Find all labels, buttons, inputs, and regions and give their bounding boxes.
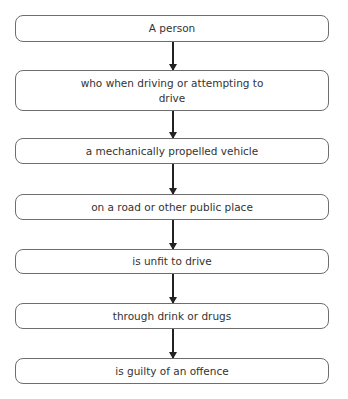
down-arrow-icon — [172, 42, 174, 70]
flow-step-guilty: is guilty of an offence — [15, 358, 329, 384]
flow-step-drink-drugs: through drink or drugs — [15, 303, 329, 329]
step-label: through drink or drugs — [113, 309, 231, 324]
flow-step-unfit: is unfit to drive — [15, 249, 329, 274]
down-arrow-icon — [172, 329, 174, 358]
down-arrow-icon — [172, 164, 174, 194]
step-label: a mechanically propelled vehicle — [86, 144, 258, 159]
down-arrow-icon — [172, 111, 174, 138]
flow-step-vehicle: a mechanically propelled vehicle — [15, 138, 329, 164]
step-label: who when driving or attempting to drive — [76, 76, 268, 106]
step-label: on a road or other public place — [91, 200, 253, 215]
flow-step-driving: who when driving or attempting to drive — [15, 70, 329, 111]
step-label: is unfit to drive — [132, 254, 212, 269]
flow-step-road: on a road or other public place — [15, 194, 329, 220]
down-arrow-icon — [172, 274, 174, 303]
flow-step-person: A person — [15, 15, 329, 42]
down-arrow-icon — [172, 220, 174, 249]
step-label: is guilty of an offence — [115, 364, 228, 379]
step-label: A person — [149, 21, 196, 36]
